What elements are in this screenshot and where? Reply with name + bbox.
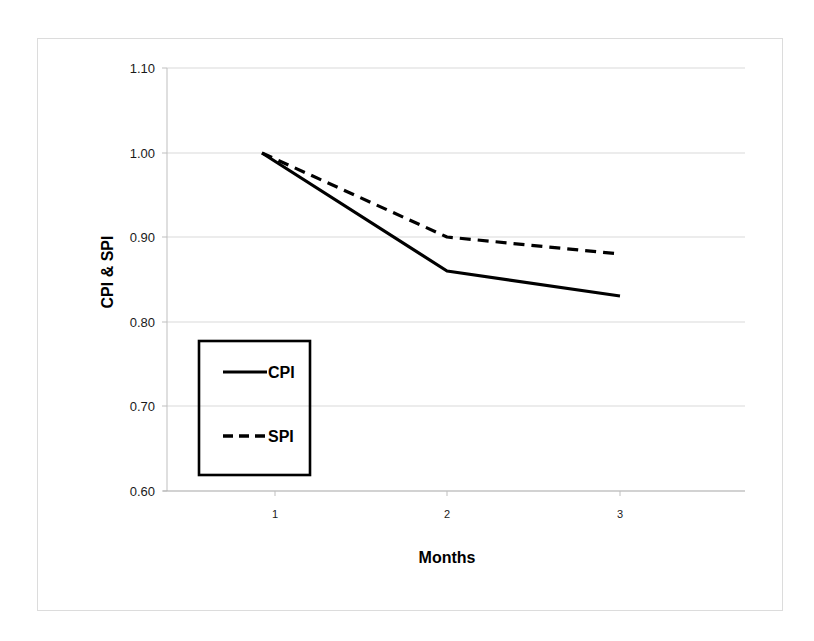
y-tick-label-1: 1.00 xyxy=(130,146,155,161)
legend-box xyxy=(199,341,310,475)
y-tick-label-5: 0.60 xyxy=(130,484,155,499)
chart-legend[interactable]: CPI SPI xyxy=(199,341,310,475)
x-tick-label-1: 2 xyxy=(444,508,450,520)
x-tick-label-0: 1 xyxy=(272,508,278,520)
y-axis-title: CPI & SPI xyxy=(99,236,116,309)
y-tick-labels: 1.10 1.00 0.90 0.80 0.70 0.60 xyxy=(130,61,155,499)
y-tick-label-3: 0.80 xyxy=(130,315,155,330)
x-tick-marks xyxy=(275,491,620,496)
axis-lines xyxy=(163,68,745,491)
data-series[interactable] xyxy=(262,153,620,296)
x-tick-labels: 1 2 3 xyxy=(272,508,623,520)
gridlines xyxy=(167,68,745,406)
x-tick-label-2: 3 xyxy=(617,508,623,520)
series-line-spi[interactable] xyxy=(262,153,620,254)
legend-label-spi: SPI xyxy=(268,428,294,445)
chart-container: 1.10 1.00 0.90 0.80 0.70 0.60 1 2 3 CPI … xyxy=(0,0,814,641)
line-chart[interactable]: 1.10 1.00 0.90 0.80 0.70 0.60 1 2 3 CPI … xyxy=(0,0,814,641)
y-tick-label-0: 1.10 xyxy=(130,61,155,76)
y-tick-label-4: 0.70 xyxy=(130,399,155,414)
series-line-cpi[interactable] xyxy=(262,153,620,296)
x-axis-title: Months xyxy=(419,549,476,566)
legend-label-cpi: CPI xyxy=(268,364,295,381)
y-tick-label-2: 0.90 xyxy=(130,230,155,245)
y-tick-marks xyxy=(162,68,167,491)
